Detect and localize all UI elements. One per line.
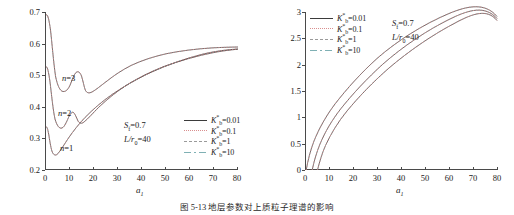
right-annot-lr-sym: L/r — [392, 32, 402, 42]
leg-l3-sup: * — [216, 146, 219, 152]
left-curves — [0, 0, 257, 200]
left-annot-lr-val: =40 — [137, 134, 150, 144]
leg-r2-val: =1 — [348, 35, 356, 44]
leg-l0-val: =0.01 — [222, 116, 240, 125]
left-mode-n3-val: =3 — [66, 73, 75, 83]
left-mode-label-n3: n=3 — [62, 73, 75, 83]
right-curves — [257, 0, 514, 200]
leg-l1-val: =0.1 — [222, 126, 236, 135]
left-param-annotations: Sf=0.7 L/r0=40 — [124, 119, 151, 148]
right-legend-swatch-solid — [310, 18, 333, 19]
right-legend-swatch-dashdot — [310, 49, 333, 51]
right-annot-sf-val: =0.7 — [398, 18, 413, 28]
left-legend-item-3[interactable]: K*b=10 — [184, 147, 240, 158]
left-annot-sf: Sf=0.7 — [124, 119, 151, 133]
left-mode-n1-val: =1 — [64, 143, 73, 153]
left-legend: K*b=0.01 K*b=0.1 K*b=1 K*b=10 — [184, 115, 240, 157]
left-mode-label-n2: n=2 — [58, 108, 71, 118]
leg-l3-val: =10 — [222, 147, 234, 156]
right-legend-swatch-dotted — [310, 28, 333, 29]
right-annot-lr: L/r0=40 — [392, 31, 419, 45]
right-annot-lr-val: =40 — [405, 32, 418, 42]
right-legend: K*b=0.01 K*b=0.1 K*b=1 K*b=10 — [310, 13, 366, 55]
right-param-annotations: Sf=0.7 L/r0=40 — [392, 17, 419, 46]
left-mode-label-n1: n=1 — [60, 143, 73, 153]
left-mode-n2-val: =2 — [62, 108, 71, 118]
right-plot-panel: 3 2.5 2 1.5 1 0.5 0 0 10 20 30 40 50 60 … — [257, 0, 514, 200]
left-annot-lr: L/r0=40 — [124, 133, 151, 147]
left-legend-swatch-dotted — [184, 130, 207, 131]
leg-l2-val: =1 — [222, 137, 230, 146]
left-legend-swatch-dashdot — [184, 151, 207, 153]
right-legend-item-3[interactable]: K*b=10 — [310, 45, 366, 56]
leg-r1-val: =0.1 — [348, 24, 362, 33]
right-legend-label-3: K*b=10 — [337, 44, 360, 56]
figure-container: 0.7 0.6 0.5 0.4 0.3 0.2 0 10 20 30 40 50… — [0, 0, 514, 215]
left-plot-panel: 0.7 0.6 0.5 0.4 0.3 0.2 0 10 20 30 40 50… — [0, 0, 257, 200]
leg-r0-val: =0.01 — [348, 14, 366, 23]
left-legend-label-3: K*b=10 — [211, 146, 234, 158]
left-legend-swatch-solid — [184, 120, 207, 121]
leg-r1-sup: * — [342, 23, 345, 29]
left-legend-swatch-dashed — [184, 141, 207, 142]
leg-r3-sup: * — [342, 44, 345, 50]
leg-l1-sup: * — [216, 125, 219, 131]
right-legend-swatch-dashed — [310, 39, 333, 40]
leg-r3-val: =10 — [348, 45, 360, 54]
left-annot-sf-val: =0.7 — [130, 120, 145, 130]
figure-caption: 图 5-13 地层参数对上质粒子理谱的影响 — [0, 200, 514, 215]
right-annot-sf: Sf=0.7 — [392, 17, 419, 31]
left-annot-lr-sym: L/r — [124, 134, 134, 144]
